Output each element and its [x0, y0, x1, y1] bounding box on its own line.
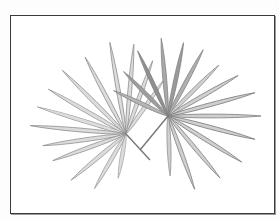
illustration-canvas [0, 0, 279, 221]
palm-fronds-drawing [0, 0, 279, 221]
